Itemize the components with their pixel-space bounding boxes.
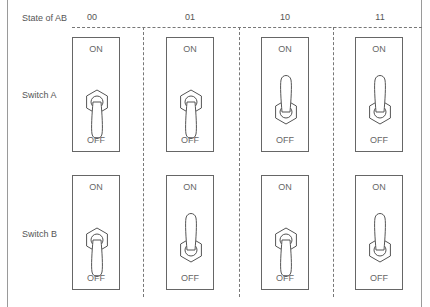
switch-a-label: Switch A <box>22 90 57 100</box>
header-dashed-divider <box>72 27 422 28</box>
state-10-label: 10 <box>265 12 305 22</box>
toggle-switch-on-icon <box>360 60 400 145</box>
off-label: OFF <box>356 135 402 145</box>
switch-b-label: Switch B <box>22 229 57 239</box>
switch-b-state-00[interactable]: ON OFF <box>72 175 120 290</box>
on-label: ON <box>167 182 213 192</box>
off-label: OFF <box>262 135 308 145</box>
off-label: OFF <box>73 273 119 283</box>
toggle-switch-off-icon <box>266 198 306 283</box>
on-label: ON <box>356 44 402 54</box>
on-label: ON <box>167 44 213 54</box>
frame-left-border <box>7 0 8 307</box>
switch-a-state-10[interactable]: ON OFF <box>261 37 309 152</box>
switch-b-state-11[interactable]: ON OFF <box>355 175 403 290</box>
toggle-switch-on-icon <box>171 198 211 283</box>
switch-a-state-00[interactable]: ON OFF <box>72 37 120 152</box>
state-11-label: 11 <box>360 12 400 22</box>
on-label: ON <box>73 182 119 192</box>
column-divider-1 <box>143 27 144 297</box>
toggle-switch-on-icon <box>266 60 306 145</box>
off-label: OFF <box>167 273 213 283</box>
state-of-ab-label: State of AB <box>22 13 67 23</box>
on-label: ON <box>73 44 119 54</box>
on-label: ON <box>356 182 402 192</box>
on-label: ON <box>262 44 308 54</box>
switch-a-state-11[interactable]: ON OFF <box>355 37 403 152</box>
off-label: OFF <box>167 135 213 145</box>
off-label: OFF <box>356 273 402 283</box>
column-divider-2 <box>239 27 240 297</box>
toggle-switch-off-icon <box>77 60 117 145</box>
toggle-switch-off-icon <box>171 60 211 145</box>
state-01-label: 01 <box>170 12 210 22</box>
frame-right-border <box>421 0 422 307</box>
off-label: OFF <box>262 273 308 283</box>
switch-a-state-01[interactable]: ON OFF <box>166 37 214 152</box>
switch-b-state-01[interactable]: ON OFF <box>166 175 214 290</box>
toggle-switch-on-icon <box>360 198 400 283</box>
on-label: ON <box>262 182 308 192</box>
state-00-label: 00 <box>72 12 112 22</box>
switch-b-state-10[interactable]: ON OFF <box>261 175 309 290</box>
column-divider-3 <box>333 27 334 297</box>
off-label: OFF <box>73 135 119 145</box>
toggle-switch-off-icon <box>77 198 117 283</box>
